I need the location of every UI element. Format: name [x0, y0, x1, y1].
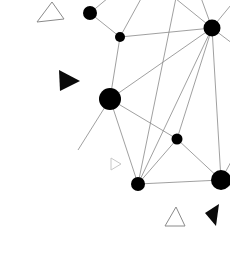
graph-svg: [0, 0, 230, 267]
triangle-marker: [37, 2, 64, 22]
graph-node[interactable]: [172, 134, 183, 145]
graph-edge: [138, 139, 177, 184]
markers-layer: [37, 2, 219, 226]
graph-node[interactable]: [115, 32, 125, 42]
graph-edge: [138, 28, 212, 184]
triangle-marker: [111, 158, 121, 170]
graph-node[interactable]: [99, 88, 121, 110]
graph-open-edge: [138, 0, 178, 184]
triangle-marker: [205, 204, 219, 226]
graph-open-edge: [120, 0, 148, 37]
graph-edge: [212, 28, 221, 180]
triangle-marker: [59, 70, 80, 91]
graph-edge: [138, 180, 221, 184]
graph-edge: [110, 99, 138, 184]
graph-node[interactable]: [204, 20, 221, 37]
graph-node[interactable]: [83, 6, 97, 20]
graph-edge: [177, 28, 212, 139]
graph-open-edge: [160, 0, 212, 28]
triangle-marker: [165, 207, 185, 226]
graph-canvas: [0, 0, 230, 267]
graph-edge: [110, 28, 212, 99]
graph-edge: [110, 99, 177, 139]
graph-edge: [120, 28, 212, 37]
graph-node[interactable]: [131, 177, 145, 191]
